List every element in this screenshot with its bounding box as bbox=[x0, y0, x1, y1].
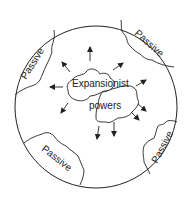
passive-label-bottom-left: Passive bbox=[40, 143, 75, 173]
passive-region-top-left: Passive bbox=[15, 30, 54, 95]
arrow-up-left-icon bbox=[62, 62, 70, 72]
passive-region-top-right: Passive bbox=[121, 20, 174, 67]
arrow-down-right-upper-icon bbox=[138, 104, 146, 111]
passive-region-bottom-left: Passive bbox=[24, 133, 84, 185]
arrow-right-icon bbox=[136, 80, 146, 86]
passive-label-top-right: Passive bbox=[133, 27, 167, 59]
center-label-powers: powers bbox=[89, 100, 121, 111]
arrow-up-right-icon bbox=[113, 63, 123, 70]
passive-label-bottom-right: Passive bbox=[149, 128, 175, 164]
arrow-down-icon bbox=[97, 126, 99, 139]
center-label-expansionist: Expansionist bbox=[72, 78, 129, 89]
arrow-down-right-lower-icon bbox=[131, 112, 139, 120]
passive-region-bottom-right: Passive bbox=[143, 121, 177, 175]
expansionist-powers-diagram: Passive Passive Passive Passive Expansio… bbox=[0, 0, 192, 200]
arrow-down-left-icon bbox=[61, 103, 68, 113]
